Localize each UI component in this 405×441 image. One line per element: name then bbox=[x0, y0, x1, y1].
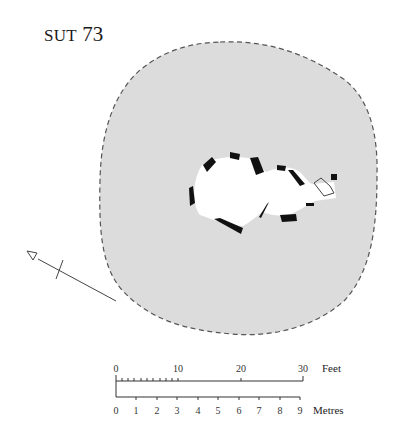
metres-tick: 8 bbox=[278, 405, 283, 416]
metres-tick: 6 bbox=[237, 405, 242, 416]
metres-tick: 7 bbox=[257, 405, 262, 416]
scale-bar bbox=[116, 375, 303, 400]
feet-tick-10: 10 bbox=[173, 363, 183, 374]
metres-tick: 9 bbox=[298, 405, 303, 416]
north-arrow-icon bbox=[27, 251, 116, 301]
feet-label: Feet bbox=[322, 362, 341, 374]
metres-label: Metres bbox=[313, 404, 344, 416]
metres-tick: 4 bbox=[196, 405, 201, 416]
metres-tick: 5 bbox=[216, 405, 221, 416]
metres-tick: 2 bbox=[155, 405, 160, 416]
metres-tick: 0 bbox=[114, 405, 119, 416]
feet-tick-30: 30 bbox=[298, 363, 308, 374]
feet-tick-20: 20 bbox=[236, 363, 246, 374]
metres-tick: 1 bbox=[134, 405, 139, 416]
metres-tick: 3 bbox=[175, 405, 180, 416]
feet-tick-0: 0 bbox=[114, 363, 119, 374]
